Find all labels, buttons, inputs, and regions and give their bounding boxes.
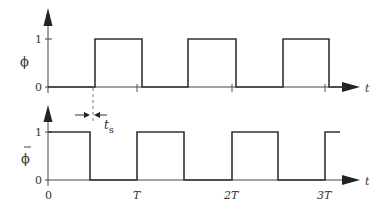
ts-right-arrow-icon	[84, 112, 90, 118]
ts-label: ts	[104, 118, 114, 135]
bottom-plot: 1 0 ϕ t 0 T 2T 3T	[21, 105, 370, 202]
x-tick-label-0: 0	[45, 189, 52, 202]
phi-bar-waveform	[48, 132, 340, 180]
bottom-x-axis-label: t	[365, 175, 370, 188]
bottom-x-axis-arrow-icon	[342, 175, 360, 185]
top-x-axis-label: t	[365, 82, 370, 95]
x-tick-label-2T: 2T	[223, 189, 240, 202]
phi-waveform	[48, 39, 346, 87]
top-signal-label: ϕ	[20, 54, 29, 69]
x-tick-label-T: T	[133, 189, 142, 202]
top-plot: 1 0 ϕ t	[20, 8, 370, 95]
ts-left-arrow-icon	[94, 112, 100, 118]
top-y-label-0: 0	[35, 81, 42, 94]
bottom-y-label-1: 1	[35, 126, 42, 139]
bottom-signal-label: ϕ	[21, 151, 30, 166]
top-y-axis-arrow-icon	[44, 8, 53, 26]
x-tick-label-3T: 3T	[317, 189, 333, 202]
bottom-y-axis-arrow-icon	[44, 105, 53, 122]
bottom-y-label-0: 0	[35, 174, 42, 187]
top-y-label-1: 1	[35, 33, 42, 46]
timing-diagram: 1 0 ϕ t ts 1 0 ϕ t	[0, 0, 386, 212]
